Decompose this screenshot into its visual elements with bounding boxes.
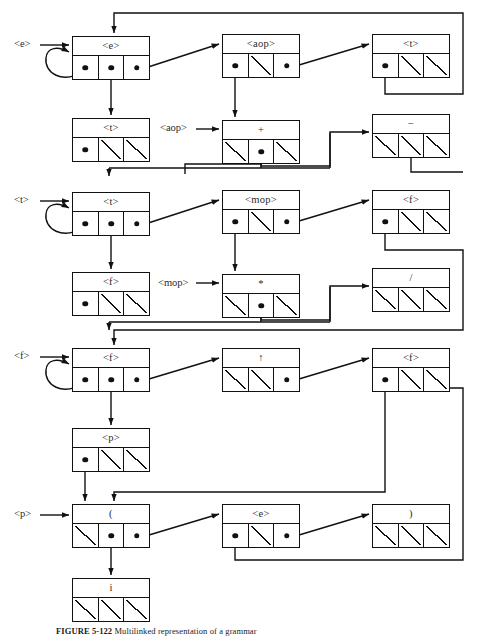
- pointer-cell: [73, 292, 99, 315]
- pointer-dot: [108, 221, 114, 227]
- null-cell: [99, 138, 125, 161]
- null-cell: [399, 210, 425, 233]
- pointer-dot: [83, 65, 89, 71]
- null-cell: [223, 140, 249, 163]
- null-cell: [249, 524, 275, 547]
- pointer-cell: [124, 368, 149, 391]
- node-cells: [73, 598, 149, 621]
- null-cell: [399, 134, 425, 157]
- pointer-cell: [99, 368, 125, 391]
- pointer-dot: [134, 533, 140, 539]
- null-cell: [249, 368, 275, 391]
- entry-label-f: <f>: [14, 350, 29, 361]
- node-div: /: [372, 268, 450, 312]
- node-rpar: ): [372, 504, 450, 548]
- node-label: ↑: [223, 349, 299, 368]
- null-cell: [249, 210, 275, 233]
- null-cell: [424, 210, 449, 233]
- pointer-dot: [83, 147, 89, 153]
- pointer-cell: [274, 524, 299, 547]
- node-label: <t>: [73, 119, 149, 138]
- node-t1: <t>: [72, 118, 150, 162]
- pointer-cell: [274, 210, 299, 233]
- entry-label-e: <e>: [14, 38, 31, 49]
- node-p1: <p>: [72, 428, 150, 472]
- node-label: <t>: [373, 35, 449, 54]
- node-cells: [373, 524, 449, 547]
- node-f1: <f>: [72, 272, 150, 316]
- pointer-dot: [233, 219, 239, 225]
- node-cells: [73, 56, 149, 79]
- node-cells: [223, 210, 299, 233]
- node-cells: [223, 140, 299, 163]
- null-cell: [73, 524, 99, 547]
- pointer-cell: [223, 54, 249, 77]
- null-cell: [399, 54, 425, 77]
- null-cell: [124, 138, 149, 161]
- node-label: *: [223, 275, 299, 294]
- null-cell: [424, 54, 449, 77]
- entry-label-aop: <aop>: [160, 122, 187, 133]
- node-e1: <e>: [72, 36, 150, 80]
- null-cell: [424, 134, 449, 157]
- null-cell: [399, 288, 425, 311]
- node-label: <f>: [73, 349, 149, 368]
- node-label: (: [73, 505, 149, 524]
- null-cell: [99, 292, 125, 315]
- null-cell: [223, 368, 249, 391]
- null-cell: [274, 140, 299, 163]
- pointer-dot: [284, 63, 290, 69]
- node-cells: [73, 292, 149, 315]
- null-cell: [99, 448, 125, 471]
- node-label: <t>: [73, 193, 149, 212]
- null-cell: [424, 524, 449, 547]
- figure-caption: FIGURE 5-122 Multilinked representation …: [56, 626, 257, 636]
- node-aop1: <aop>: [222, 34, 300, 78]
- node-label: ): [373, 505, 449, 524]
- node-label: /: [373, 269, 449, 288]
- node-cells: [373, 134, 449, 157]
- null-cell: [124, 598, 149, 621]
- pointer-dot: [284, 377, 290, 383]
- pointer-cell: [124, 524, 149, 547]
- pointer-dot: [108, 65, 114, 71]
- node-cells: [373, 210, 449, 233]
- pointer-cell: [73, 368, 99, 391]
- pointer-cell: [249, 140, 275, 163]
- node-cells: [223, 54, 299, 77]
- node-ivar: i: [72, 578, 150, 622]
- node-label: <p>: [73, 429, 149, 448]
- null-cell: [124, 448, 149, 471]
- node-e2: <e>: [222, 504, 300, 548]
- node-lpar: (: [72, 504, 150, 548]
- node-label: <mop>: [223, 191, 299, 210]
- pointer-dot: [383, 63, 389, 69]
- entry-label-t: <t>: [14, 194, 29, 205]
- pointer-cell: [223, 210, 249, 233]
- null-cell: [373, 134, 399, 157]
- pointer-cell: [73, 138, 99, 161]
- pointer-dot: [134, 221, 140, 227]
- null-cell: [124, 292, 149, 315]
- node-label: <aop>: [223, 35, 299, 54]
- node-f2: <f>: [372, 190, 450, 234]
- null-cell: [73, 598, 99, 621]
- entry-label-mop: <mop>: [158, 277, 189, 288]
- pointer-dot: [108, 533, 114, 539]
- null-cell: [399, 368, 425, 391]
- pointer-cell: [274, 368, 299, 391]
- node-mop1: <mop>: [222, 190, 300, 234]
- node-cells: [73, 448, 149, 471]
- pointer-cell: [99, 212, 125, 235]
- pointer-dot: [233, 63, 239, 69]
- pointer-dot: [258, 303, 264, 309]
- null-cell: [373, 288, 399, 311]
- node-t2: <t>: [372, 34, 450, 78]
- pointer-dot: [83, 377, 89, 383]
- pointer-cell: [99, 56, 125, 79]
- pointer-dot: [134, 65, 140, 71]
- node-label: <e>: [73, 37, 149, 56]
- null-cell: [99, 598, 125, 621]
- pointer-dot: [83, 457, 89, 463]
- node-label: −: [373, 115, 449, 134]
